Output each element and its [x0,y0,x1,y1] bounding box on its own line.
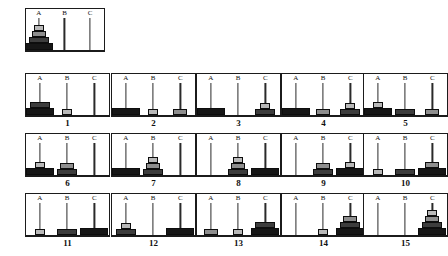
peg-c: C [81,134,108,176]
peg-label-c: C [178,134,183,142]
disk-stack-c [251,168,279,175]
disk-stack-b [233,229,243,235]
peg-label-a: A [36,9,41,17]
peg-rod-a [295,203,296,235]
disk-size-3 [116,229,136,235]
disk-stack-c [425,109,439,115]
disk-size-3 [395,169,415,175]
peg-b: B [391,74,418,116]
disk-size-3 [395,109,415,115]
step-caption-10: 10 [363,178,448,188]
peg-rod-c [180,143,181,175]
tower-of-hanoi-figure: ABCABC1ABC2ABC3ABC4ABC5ABC6ABC7ABC8ABC9A… [0,0,448,256]
disk-stack-a [364,102,392,115]
disk-size-3 [340,109,360,115]
disk-size-4 [251,228,279,235]
peg-b: B [53,134,80,176]
board-inner: ABC [364,194,447,236]
disk-stack-c [166,228,194,235]
disk-size-3 [57,229,77,235]
peg-a: A [364,134,391,176]
peg-label-b: B [321,74,326,82]
disk-stack-c [173,109,187,115]
disk-stack-c [251,222,279,235]
disk-size-3 [228,169,248,175]
peg-label-c: C [178,194,183,202]
step-board-9: ABC [281,133,366,177]
disk-stack-c [418,162,446,175]
peg-label-a: A [123,134,128,142]
disk-size-4 [418,168,446,175]
disk-stack-b [318,229,328,235]
peg-label-a: A [375,74,380,82]
board-inner: ABC [112,74,195,116]
peg-label-a: A [293,194,298,202]
disk-size-1 [318,229,328,235]
peg-c: C [337,134,364,176]
peg-label-a: A [293,134,298,142]
step-board-7: ABC [111,133,196,177]
peg-b: B [53,74,80,116]
peg-label-a: A [293,74,298,82]
peg-label-c: C [430,134,435,142]
peg-label-b: B [62,9,67,17]
disk-size-4 [251,168,279,175]
peg-a: A [26,134,53,176]
disk-size-1 [148,109,158,115]
disk-size-2 [173,109,187,115]
peg-b: B [52,9,78,51]
peg-label-c: C [263,194,268,202]
disk-stack-b [316,109,330,115]
disk-size-2 [316,109,330,115]
peg-rod-c [90,18,91,50]
disk-stack-c [336,162,364,175]
peg-b: B [53,194,80,236]
step-board-5: ABC [363,73,448,117]
peg-label-a: A [375,194,380,202]
board-inner: ABC [26,9,104,51]
step-caption-11: 11 [25,238,110,248]
disk-stack-a [116,223,136,235]
step-board-6: ABC [25,133,110,177]
peg-label-c: C [348,194,353,202]
peg-a: A [26,74,53,116]
peg-b: B [309,194,336,236]
peg-label-b: B [403,134,408,142]
peg-rod-b [64,18,65,50]
disk-size-4 [336,168,364,175]
peg-c: C [77,9,103,51]
disk-stack-a [26,162,54,175]
peg-a: A [112,194,139,236]
peg-c: C [81,194,108,236]
peg-a: A [197,74,224,116]
peg-label-c: C [348,74,353,82]
peg-c: C [81,74,108,116]
peg-b: B [139,74,166,116]
peg-b: B [224,194,251,236]
peg-rod-b [237,83,238,115]
peg-rod-b [152,203,153,235]
step-board-11: ABC [25,193,110,237]
peg-c: C [167,194,194,236]
peg-label-c: C [92,74,97,82]
board-inner: ABC [282,134,365,176]
disk-size-1 [373,169,383,175]
peg-rod-b [404,203,405,235]
peg-c: C [167,74,194,116]
step-board-8: ABC [196,133,281,177]
disk-stack-c [255,103,275,115]
peg-label-b: B [403,74,408,82]
peg-label-c: C [92,194,97,202]
initial-state-board: ABC [25,8,105,52]
disk-size-3 [143,169,163,175]
peg-label-a: A [208,194,213,202]
peg-b: B [309,74,336,116]
step-board-13: ABC [196,193,281,237]
disk-stack-b [57,229,77,235]
peg-c: C [167,134,194,176]
peg-rod-a [377,203,378,235]
peg-c: C [252,194,279,236]
disk-stack-a [282,108,310,115]
peg-c: C [419,194,446,236]
peg-label-a: A [208,134,213,142]
